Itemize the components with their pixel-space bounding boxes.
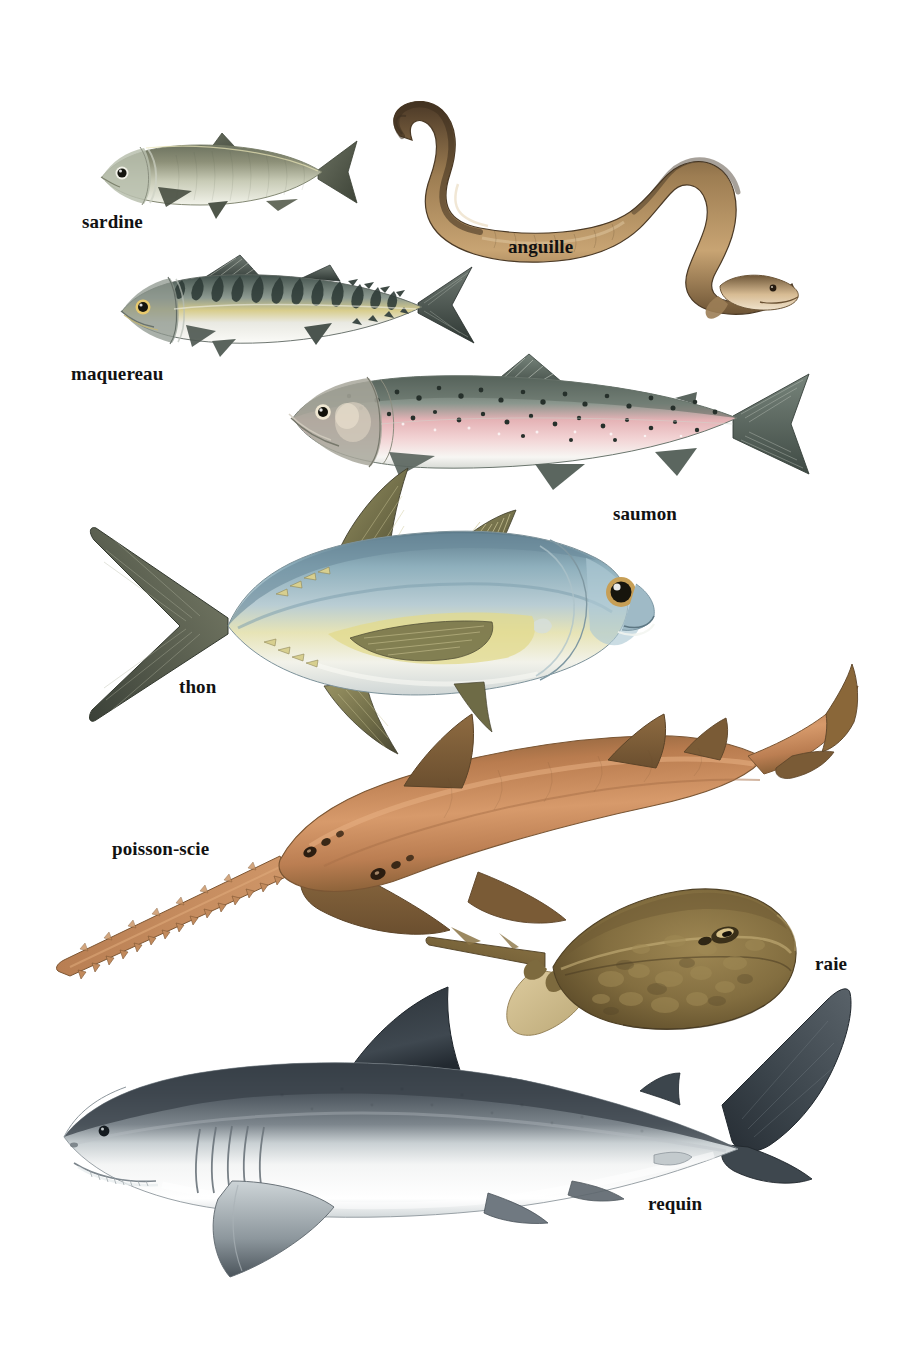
- label-poisson-scie: poisson-scie: [112, 839, 209, 858]
- illustration-sardine: [96, 125, 358, 220]
- label-anguille: anguille: [508, 237, 573, 256]
- illustration-poisson-scie: [48, 660, 860, 992]
- label-saumon: saumon: [613, 504, 677, 523]
- illustration-requin: [42, 985, 870, 1299]
- label-requin: requin: [648, 1194, 702, 1213]
- label-thon: thon: [179, 677, 216, 696]
- label-maquereau: maquereau: [71, 364, 163, 383]
- illustration-raie: [425, 875, 805, 1065]
- illustration-maquereau: [116, 253, 478, 365]
- fish-plate: sardine: [0, 0, 901, 1363]
- label-raie: raie: [815, 954, 847, 973]
- illustration-anguille: [362, 88, 802, 320]
- illustration-thon: [88, 466, 658, 758]
- illustration-saumon: [285, 352, 813, 504]
- label-sardine: sardine: [82, 212, 143, 231]
